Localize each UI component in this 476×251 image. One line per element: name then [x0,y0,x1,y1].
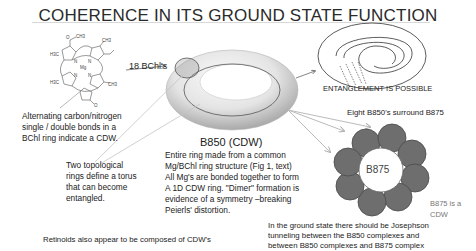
molecule-icon [60,37,114,104]
torus-icon [166,50,298,130]
note-line: All Mg's are bonded together to form [165,172,299,183]
molecule-label: CH3 [108,82,117,87]
b875-surround-label: Eight B850's surround B875 [347,107,444,118]
note-line: Peierls' distortion. [165,205,299,216]
molecule-label: Mg [80,65,87,70]
molecule-label: N [74,59,77,64]
note-line: entangled. [66,193,137,204]
b875-center-label: B875 [366,164,389,175]
cdw-note: Alternating carbon/nitrogen single / dou… [22,111,122,144]
arrow-icon [288,110,330,152]
note-line: between B850 complexes and B875 complex [268,241,429,251]
note-line: that can become [66,182,137,193]
note-line: Mg/BChl ring structure (Fig 1, text) [165,161,299,172]
josephson-note: In the ground state there should be Jose… [268,221,429,251]
arrow-icon [288,110,344,131]
b850-description: Entire ring made from a common Mg/BChl r… [165,150,299,216]
molecule-label: H3C [50,52,60,57]
note-line: BChl ring indicate a CDW. [22,133,122,144]
note-line: evidence of a symmetry –breaking [165,194,299,205]
molecule-label: CH3 [76,34,85,39]
note-line: rings define a torus [66,171,137,182]
molecule-label: H3C [50,80,60,85]
entangled-torus-icon [318,23,426,89]
molecule-label: N [88,59,91,64]
pointer-line [60,90,82,108]
note-line: Two topological [66,160,137,171]
entanglement-label: ENTANGLEMENT IS POSSIBLE [323,83,432,94]
note-line: In the ground state there should be Jose… [268,221,429,231]
torus-note: Two topological rings define a torus tha… [66,160,137,204]
molecule-label: O [94,103,98,108]
molecule-label: O [66,35,70,40]
molecule-label: CH3 [102,38,111,43]
arrow-icon [296,71,315,78]
note-line: single / double bonds in a [22,122,122,133]
b875-cdw-label: B875 is a CDW [430,198,476,220]
note-line: tunneling between the B850 complexes and [268,231,429,241]
bchl-count-label: 18 BChl's [129,61,167,72]
note-line: Entire ring made from a common [165,150,299,161]
note-line: Alternating carbon/nitrogen [22,111,122,122]
retinoids-note: Retinoids also appear to be composed of … [43,234,211,245]
molecule-label: N [74,73,77,78]
b850-heading: B850 (CDW) [200,136,262,148]
note-line: A 1D CDW ring. "Dimer" formation is [165,183,299,194]
molecule-label: N [88,73,91,78]
